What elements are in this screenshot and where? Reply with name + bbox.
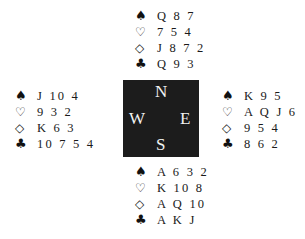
- east-diamonds-row: ◇ 9 5 4: [222, 120, 297, 136]
- north-spades-cards: Q 8 7: [157, 8, 196, 24]
- east-hearts-row: ♡ A Q J 6: [222, 104, 297, 120]
- west-hearts-cards: 9 3 2: [37, 104, 73, 120]
- east-clubs-cards: 8 6 2: [244, 136, 280, 152]
- north-clubs-row: ♣ Q 9 3: [135, 56, 205, 72]
- diamond-icon: ◇: [135, 196, 157, 212]
- west-diamonds-row: ◇ K 6 3: [15, 120, 95, 136]
- south-clubs-cards: A K J: [157, 212, 196, 228]
- compass-west-label: W: [129, 110, 145, 127]
- spade-icon: ♠: [15, 88, 37, 104]
- west-hearts-row: ♡ 9 3 2: [15, 104, 95, 120]
- spade-icon: ♠: [135, 8, 157, 24]
- west-diamonds-cards: K 6 3: [37, 120, 76, 136]
- west-hand: ♠ J 10 4 ♡ 9 3 2 ◇ K 6 3 ♣ 10 7 5 4: [15, 88, 95, 152]
- east-spades-cards: K 9 5: [244, 88, 283, 104]
- heart-icon: ♡: [135, 180, 157, 196]
- club-icon: ♣: [15, 136, 37, 152]
- south-clubs-row: ♣ A K J: [135, 212, 209, 228]
- south-spades-cards: A 6 3 2: [157, 164, 209, 180]
- east-spades-row: ♠ K 9 5: [222, 88, 297, 104]
- south-hearts-cards: K 10 8: [157, 180, 204, 196]
- west-clubs-cards: 10 7 5 4: [37, 136, 95, 152]
- north-diamonds-cards: J 8 7 2: [157, 40, 205, 56]
- spade-icon: ♠: [135, 164, 157, 180]
- spade-icon: ♠: [222, 88, 244, 104]
- diamond-icon: ◇: [135, 40, 157, 56]
- south-spades-row: ♠ A 6 3 2: [135, 164, 209, 180]
- club-icon: ♣: [135, 212, 157, 228]
- compass-north-label: N: [155, 83, 167, 100]
- west-clubs-row: ♣ 10 7 5 4: [15, 136, 95, 152]
- east-hearts-cards: A Q J 6: [244, 104, 297, 120]
- compass-east-label: E: [180, 110, 190, 127]
- club-icon: ♣: [222, 136, 244, 152]
- diamond-icon: ◇: [222, 120, 244, 136]
- compass-table: N W E S: [123, 80, 199, 157]
- compass-south-label: S: [156, 136, 165, 153]
- north-spades-row: ♠ Q 8 7: [135, 8, 205, 24]
- east-clubs-row: ♣ 8 6 2: [222, 136, 297, 152]
- south-diamonds-row: ◇ A Q 10: [135, 196, 209, 212]
- south-hearts-row: ♡ K 10 8: [135, 180, 209, 196]
- north-hearts-cards: 7 5 4: [157, 24, 193, 40]
- east-diamonds-cards: 9 5 4: [244, 120, 280, 136]
- heart-icon: ♡: [15, 104, 37, 120]
- east-hand: ♠ K 9 5 ♡ A Q J 6 ◇ 9 5 4 ♣ 8 6 2: [222, 88, 297, 152]
- west-spades-row: ♠ J 10 4: [15, 88, 95, 104]
- north-clubs-cards: Q 9 3: [157, 56, 196, 72]
- north-hand: ♠ Q 8 7 ♡ 7 5 4 ◇ J 8 7 2 ♣ Q 9 3: [135, 8, 205, 72]
- heart-icon: ♡: [222, 104, 244, 120]
- south-hand: ♠ A 6 3 2 ♡ K 10 8 ◇ A Q 10 ♣ A K J: [135, 164, 209, 228]
- diamond-icon: ◇: [15, 120, 37, 136]
- club-icon: ♣: [135, 56, 157, 72]
- south-diamonds-cards: A Q 10: [157, 196, 206, 212]
- north-hearts-row: ♡ 7 5 4: [135, 24, 205, 40]
- north-diamonds-row: ◇ J 8 7 2: [135, 40, 205, 56]
- heart-icon: ♡: [135, 24, 157, 40]
- west-spades-cards: J 10 4: [37, 88, 80, 104]
